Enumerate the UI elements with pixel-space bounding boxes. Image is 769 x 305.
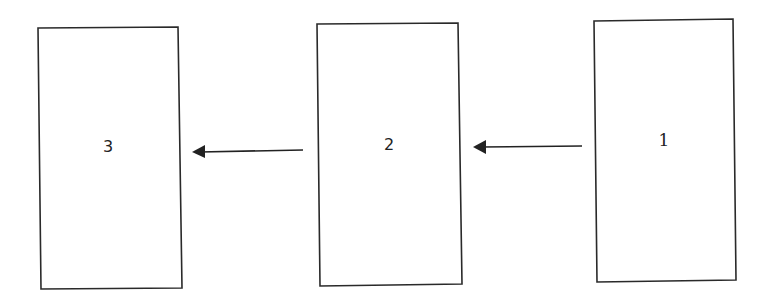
box-2-outline bbox=[317, 23, 462, 286]
arrow-1-to-2 bbox=[473, 140, 582, 154]
flow-diagram: 3 2 1 bbox=[0, 0, 769, 305]
arrow-2-to-3 bbox=[192, 145, 303, 158]
arrow-2-to-3-shaft bbox=[200, 150, 303, 152]
box-1-label: 1 bbox=[659, 130, 670, 150]
arrow-left-icon bbox=[192, 145, 205, 158]
arrow-1-to-2-shaft bbox=[481, 146, 582, 147]
box-3: 3 bbox=[38, 27, 182, 289]
box-3-label: 3 bbox=[103, 137, 113, 156]
box-1-outline bbox=[594, 19, 736, 282]
box-3-outline bbox=[38, 27, 182, 289]
box-1: 1 bbox=[594, 19, 736, 282]
box-2: 2 bbox=[317, 23, 462, 286]
arrow-left-icon bbox=[473, 140, 486, 154]
box-2-label: 2 bbox=[384, 135, 394, 154]
